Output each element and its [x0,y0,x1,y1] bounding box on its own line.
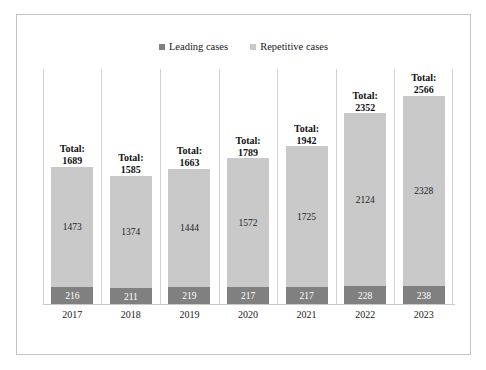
segment-value-repetitive-2022: 2124 [356,195,375,205]
total-value: 2566 [414,84,434,95]
bar-group-2023: Total: 2566 2328 238 [394,69,453,305]
bar-stack-2019: 1444 219 [168,169,210,305]
legend-swatch-leading-cases [159,44,165,50]
total-label-2020: Total: 1789 [219,135,278,158]
segment-repetitive-2018: 1374 [110,176,152,288]
segment-leading-2021: 217 [286,287,328,305]
segment-value-leading-2022: 228 [358,291,372,301]
total-prefix: Total: [60,143,85,154]
bar-group-2017: Total: 1689 1473 216 [43,69,102,305]
total-label-2023: Total: 2566 [394,72,453,95]
segment-value-leading-2023: 238 [417,291,431,301]
segment-repetitive-2017: 1473 [51,167,93,287]
bar-stack-2018: 1374 211 [110,176,152,305]
segment-value-repetitive-2021: 1725 [297,212,316,222]
x-axis-line [43,304,455,305]
segment-leading-2020: 217 [227,287,269,305]
total-prefix: Total: [235,135,260,146]
x-axis-labels: 2017 2018 2019 2020 2021 2022 2023 [43,309,453,320]
bar-group-2019: Total: 1663 1444 219 [160,69,219,305]
total-prefix: Total: [353,90,378,101]
segment-value-leading-2019: 219 [182,291,196,301]
legend-label-repetitive-cases: Repetitive cases [260,41,328,52]
bar-stack-2020: 1572 217 [227,158,269,305]
total-value: 1689 [62,155,82,166]
segment-value-leading-2020: 217 [241,291,255,301]
total-prefix: Total: [177,145,202,156]
total-prefix: Total: [411,72,436,83]
legend-swatch-repetitive-cases [250,44,256,50]
x-tick-2017: 2017 [43,309,102,320]
total-value: 1789 [238,147,258,158]
total-prefix: Total: [118,152,143,163]
x-tick-2021: 2021 [277,309,336,320]
segment-leading-2022: 228 [344,286,386,305]
total-label-2018: Total: 1585 [102,152,161,175]
total-label-2019: Total: 1663 [160,145,219,168]
x-tick-2022: 2022 [336,309,395,320]
segment-value-repetitive-2019: 1444 [180,223,199,233]
x-tick-2023: 2023 [394,309,453,320]
total-label-2022: Total: 2352 [336,90,395,113]
legend-entry-repetitive-cases: Repetitive cases [250,41,328,52]
bar-group-2018: Total: 1585 1374 211 [102,69,161,305]
x-tick-2020: 2020 [219,309,278,320]
segment-value-repetitive-2023: 2328 [414,186,433,196]
segment-leading-2023: 238 [403,286,445,305]
total-label-2017: Total: 1689 [43,143,102,166]
segment-value-leading-2017: 216 [65,291,79,301]
x-tick-2018: 2018 [102,309,161,320]
bar-stack-2022: 2124 228 [344,113,386,305]
segment-repetitive-2021: 1725 [286,146,328,287]
segment-value-leading-2021: 217 [299,291,313,301]
bar-group-2021: Total: 1942 1725 217 [277,69,336,305]
segment-repetitive-2020: 1572 [227,158,269,287]
total-value: 1585 [121,164,141,175]
bar-series: Total: 1689 1473 216 Total: 1585 [43,69,453,305]
segment-repetitive-2023: 2328 [403,96,445,286]
total-prefix: Total: [294,123,319,134]
total-label-2021: Total: 1942 [277,123,336,146]
chart-figure: Leading cases Repetitive cases Total: 16… [16,14,471,355]
total-value: 2352 [355,102,375,113]
segment-repetitive-2022: 2124 [344,113,386,286]
segment-value-repetitive-2017: 1473 [63,222,82,232]
segment-leading-2017: 216 [51,287,93,305]
x-tick-2019: 2019 [160,309,219,320]
segment-value-repetitive-2018: 1374 [121,227,140,237]
bar-group-2022: Total: 2352 2124 228 [336,69,395,305]
chart-legend: Leading cases Repetitive cases [17,41,470,52]
bar-stack-2023: 2328 238 [403,96,445,305]
segment-leading-2018: 211 [110,288,152,305]
total-value: 1663 [179,157,199,168]
segment-value-leading-2018: 211 [124,292,138,302]
segment-value-repetitive-2020: 1572 [239,218,258,228]
legend-label-leading-cases: Leading cases [169,41,228,52]
segment-repetitive-2019: 1444 [168,169,210,287]
bar-stack-2021: 1725 217 [286,146,328,305]
plot-area: Total: 1689 1473 216 Total: 1585 [43,69,453,305]
total-value: 1942 [297,135,317,146]
bar-stack-2017: 1473 216 [51,167,93,305]
bar-group-2020: Total: 1789 1572 217 [219,69,278,305]
segment-leading-2019: 219 [168,287,210,305]
legend-entry-leading-cases: Leading cases [159,41,228,52]
